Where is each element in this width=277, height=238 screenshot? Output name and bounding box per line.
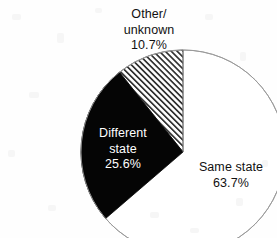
pie-chart-canvas <box>0 0 277 238</box>
pie-chart-figure: Other/ unknown 10.7% Different state 25.… <box>0 0 277 238</box>
